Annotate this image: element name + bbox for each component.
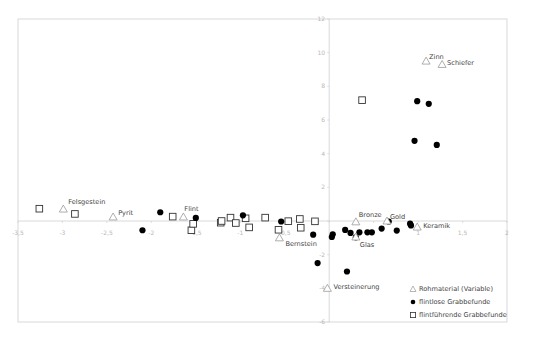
triangle-marker (413, 223, 421, 230)
triangle-icon (410, 286, 416, 292)
circle-marker (426, 101, 432, 107)
circle-marker (394, 227, 400, 233)
point-label: Keramik (423, 222, 450, 230)
legend-label: flintführende Grabbefunde (419, 311, 507, 319)
triangle-marker (438, 60, 446, 67)
circle-marker (193, 215, 199, 221)
circle-marker (356, 229, 362, 235)
circle-marker (408, 222, 414, 228)
y-tick-label: 10 (318, 49, 326, 56)
square-marker (188, 227, 195, 234)
legend-label: flintlose Grabbefunde (419, 298, 490, 306)
point-label: Gold (390, 213, 405, 221)
square-marker (246, 224, 253, 231)
square-marker (297, 224, 304, 231)
square-marker (72, 211, 79, 218)
square-marker (275, 226, 282, 233)
legend-item: Rohmaterial (Variable) (410, 285, 493, 293)
point-label: Versteinerung (333, 283, 379, 291)
circle-marker (379, 225, 385, 231)
circle-marker (278, 218, 284, 224)
square-marker (169, 213, 176, 220)
y-tick-label: -2 (319, 251, 325, 258)
circle-marker (434, 142, 440, 148)
x-tick-label: -1 (237, 229, 243, 236)
square-marker (262, 214, 269, 221)
circle-marker (411, 138, 417, 144)
square-marker (285, 218, 292, 225)
circle-marker (315, 260, 321, 266)
y-tick-label: 6 (321, 116, 325, 123)
circle-marker (330, 231, 336, 237)
legend-item: flintführende Grabbefunde (410, 311, 506, 319)
point-label: Bronze (359, 211, 382, 219)
data-points (36, 57, 446, 291)
legend-item: flintlose Grabbefunde (411, 298, 491, 306)
circle-marker (310, 232, 316, 238)
triangle-marker (59, 205, 67, 212)
scatter-chart: -3,5-3-2,5-2-1,5-1-0,511,5212108642-2-4-… (0, 0, 533, 337)
circle-marker (369, 229, 375, 235)
x-tick-label: -3 (59, 229, 65, 236)
legend-label: Rohmaterial (Variable) (419, 285, 493, 293)
x-tick-label: -2,5 (101, 229, 113, 236)
legend: Rohmaterial (Variable)flintlose Grabbefu… (410, 285, 507, 319)
x-tick-label: -3,5 (12, 229, 24, 236)
point-label: Bernstein (285, 240, 316, 248)
y-tick-label: 12 (318, 15, 326, 22)
axes (18, 19, 507, 322)
circle-marker (240, 212, 246, 218)
circle-marker (347, 230, 353, 236)
square-icon (410, 312, 415, 317)
point-label: Flint (184, 205, 199, 213)
square-marker (218, 218, 225, 225)
square-marker (359, 97, 366, 104)
x-tick-label: 1,5 (458, 229, 468, 236)
y-tick-label: -6 (319, 318, 325, 325)
square-marker (36, 205, 43, 212)
circle-marker (139, 227, 145, 233)
square-marker (190, 221, 197, 228)
triangle-marker (109, 213, 117, 220)
circle-marker (414, 98, 420, 104)
point-label: Pyrit (118, 209, 133, 217)
triangle-marker (179, 213, 187, 220)
circle-marker (157, 209, 163, 215)
square-marker (297, 216, 304, 223)
x-tick-label: 2 (505, 229, 509, 236)
point-label: Felsgestein (68, 198, 105, 206)
point-label: Zinn (429, 53, 444, 61)
point-labels: FelsgesteinPyritFlintBernsteinVersteiner… (68, 53, 474, 291)
square-marker (233, 220, 240, 227)
circle-marker (342, 227, 348, 233)
point-label: Glas (360, 241, 375, 249)
square-marker (312, 218, 319, 225)
y-tick-label: 2 (321, 183, 325, 190)
y-tick-label: 4 (321, 150, 325, 157)
plot-frame (18, 19, 507, 322)
y-tick-label: 8 (321, 82, 325, 89)
point-label: Schiefer (447, 59, 474, 67)
x-tick-label: -2 (148, 229, 154, 236)
circle-icon (411, 300, 416, 305)
circle-marker (344, 268, 350, 274)
tick-labels: -3,5-3-2,5-2-1,5-1-0,511,5212108642-2-4-… (12, 15, 509, 325)
